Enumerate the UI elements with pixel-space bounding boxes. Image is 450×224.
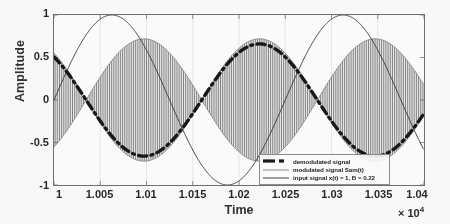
legend-item-modulated: modulated signal Sam(t) xyxy=(262,165,386,173)
y-axis-tick-label: 0.5 xyxy=(7,50,49,62)
y-axis-tick-label: -1 xyxy=(7,179,49,191)
x-axis-tick-label: 1.04 xyxy=(406,188,427,200)
thick-dashed-line-icon xyxy=(262,157,290,165)
y-axis-tick-label: 1 xyxy=(7,7,49,19)
thin-gray-line-icon xyxy=(262,166,290,174)
y-axis-tick-label: -0.5 xyxy=(7,136,49,148)
legend-box: demodulated signal modulated signal Sam(… xyxy=(259,154,390,185)
series-modulated-signal xyxy=(54,39,424,161)
x-axis-tick-label: 1.02 xyxy=(228,188,249,200)
y-axis-tick-group: 10.50-0.5-1 xyxy=(0,14,49,186)
x-axis-tick-label: 1.025 xyxy=(272,188,300,200)
thin-line-icon xyxy=(262,174,290,182)
legend-label: input signal x(t) = 1, B = 0.22 xyxy=(293,174,375,181)
figure-canvas: Amplitude 10.50-0.5-1 11.0051.011.0151.0… xyxy=(0,0,450,224)
x-axis-tick-label: 1.035 xyxy=(365,188,393,200)
x-axis-tick-label: 1.015 xyxy=(179,188,207,200)
legend-item-demodulated: demodulated signal xyxy=(262,157,386,165)
x-axis-label: Time xyxy=(53,203,425,217)
legend-item-input: input signal x(t) = 1, B = 0.22 xyxy=(262,174,386,182)
x-axis-exponent-prefix: × 10 xyxy=(398,207,420,219)
x-axis-tick-label: 1 xyxy=(56,188,62,200)
x-axis-tick-label: 1.03 xyxy=(321,188,342,200)
x-axis-exponent: × 104 xyxy=(398,205,424,219)
x-axis-tick-group: 11.0051.011.0151.021.0251.031.0351.04 xyxy=(53,188,425,204)
legend-label: demodulated signal xyxy=(293,158,350,165)
legend-label: modulated signal Sam(t) xyxy=(293,166,364,173)
x-axis-tick-label: 1.01 xyxy=(135,188,156,200)
x-axis-exponent-power: 4 xyxy=(420,205,424,214)
y-axis-tick-label: 0 xyxy=(7,93,49,105)
x-axis-tick-label: 1.005 xyxy=(86,188,114,200)
